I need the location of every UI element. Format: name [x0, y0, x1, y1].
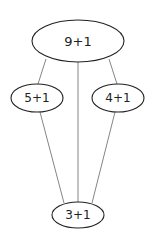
- node-bottom: 3+1: [52, 202, 104, 228]
- node-top-label: 9+1: [64, 34, 91, 49]
- diagram-canvas: 9+1 5+1 4+1 3+1: [0, 0, 154, 239]
- node-left: 5+1: [11, 84, 63, 112]
- node-left-label: 5+1: [24, 91, 49, 105]
- node-bottom-label: 3+1: [65, 208, 90, 222]
- edges: [38, 59, 117, 203]
- node-right: 4+1: [92, 84, 144, 112]
- edge-top-left: [38, 59, 46, 84]
- node-right-label: 4+1: [105, 91, 130, 105]
- edge-right-bottom: [92, 112, 115, 203]
- edge-top-right: [109, 59, 117, 84]
- edge-left-bottom: [40, 112, 64, 203]
- node-top: 9+1: [32, 20, 124, 62]
